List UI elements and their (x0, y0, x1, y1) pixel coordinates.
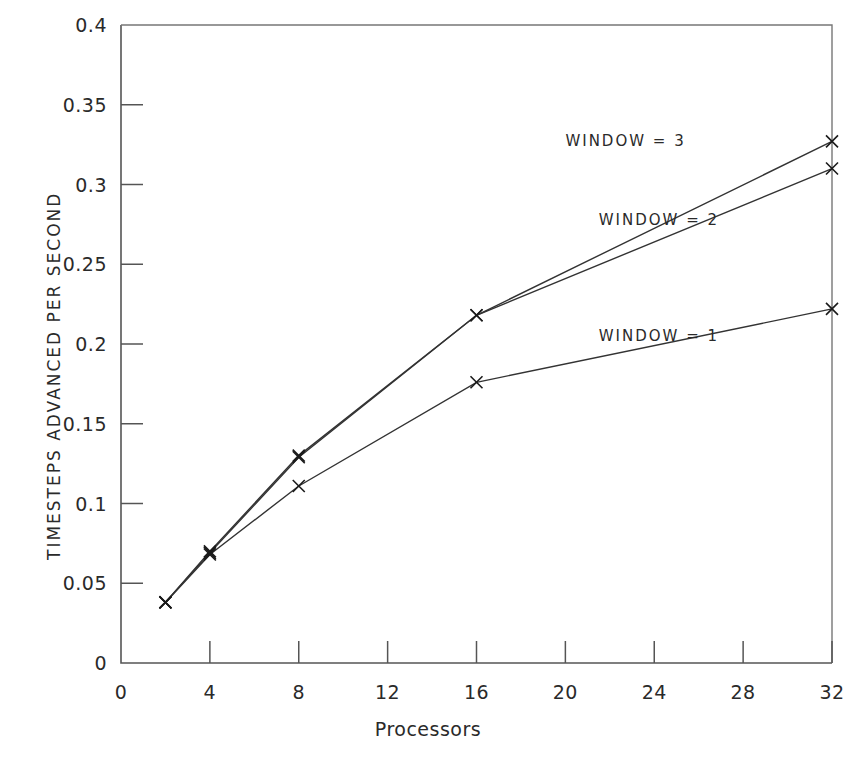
y-tick-label: 0.2 (75, 333, 107, 355)
y-axis-ticks (121, 105, 143, 584)
data-point-marker-x (471, 376, 483, 388)
data-point-marker-x (293, 450, 305, 462)
data-point-marker-x (204, 547, 216, 559)
y-tick-label: 0.3 (75, 174, 107, 196)
x-tick-label: 12 (375, 681, 400, 703)
data-point-marker-x (471, 309, 483, 321)
y-tick-label: 0.35 (63, 94, 107, 116)
chart-plot-area (0, 0, 856, 762)
data-markers-group (159, 135, 838, 608)
x-tick-label: 16 (464, 681, 489, 703)
series-label-1: WINDOW = 3 (565, 132, 685, 150)
data-point-marker-x (293, 480, 305, 492)
axis-frame (121, 25, 832, 663)
x-tick-label: 24 (642, 681, 667, 703)
x-tick-label: 8 (292, 681, 305, 703)
series-label-3: WINDOW = 1 (599, 327, 719, 345)
y-axis-title: TIMESTEPS ADVANCED PER SECOND (44, 192, 64, 560)
x-tick-label: 28 (731, 681, 756, 703)
series-line (165, 309, 832, 603)
y-tick-label: 0.15 (63, 413, 107, 435)
x-tick-label: 4 (204, 681, 217, 703)
y-tick-label: 0.25 (63, 253, 107, 275)
series-label-2: WINDOW = 2 (599, 211, 719, 229)
x-axis-ticks (210, 641, 832, 663)
x-tick-label: 32 (819, 681, 844, 703)
x-tick-label: 20 (553, 681, 578, 703)
x-tick-label: 0 (115, 681, 128, 703)
data-series-group (165, 141, 832, 602)
x-axis-title: Processors (0, 718, 856, 740)
chart-figure: TIMESTEPS ADVANCED PER SECOND Processors… (0, 0, 856, 762)
data-point-marker-x (293, 451, 305, 463)
data-point-marker-x (159, 596, 171, 608)
y-tick-label: 0.4 (75, 14, 107, 36)
y-tick-label: 0.1 (75, 493, 107, 515)
y-tick-label: 0 (94, 652, 107, 674)
y-tick-label: 0.05 (63, 572, 107, 594)
series-line (165, 169, 832, 603)
